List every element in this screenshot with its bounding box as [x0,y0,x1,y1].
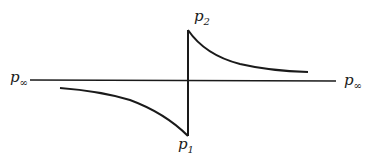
lower-decay-curve [60,88,188,136]
label-p2: p2 [194,9,210,27]
label-p-infinity-right: p∞ [344,73,362,91]
upper-decay-curve [188,30,308,72]
label-p1: p1 [178,137,194,155]
baseline-p-infinity [30,80,336,81]
label-p-infinity-left: p∞ [10,70,28,88]
